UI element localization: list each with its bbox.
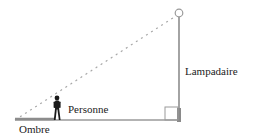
person-icon (54, 96, 61, 120)
lamp-shadow-diagram: Lampadaire Personne Ombre (0, 0, 253, 140)
lamp-label: Lampadaire (185, 65, 238, 77)
person-label: Personne (68, 103, 108, 115)
right-angle-marker (165, 107, 178, 120)
lamp-light-icon (175, 9, 183, 17)
shadow-label: Ombre (19, 123, 50, 135)
